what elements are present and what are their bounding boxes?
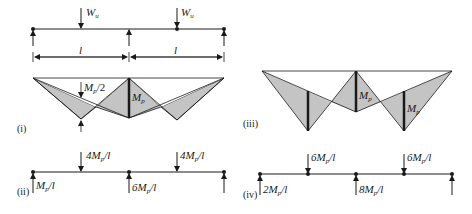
reaction-label-iv-middle: 8Mp/l xyxy=(359,184,383,197)
load-label-iv-left: 6Mp/l xyxy=(311,152,335,165)
label-mp-support: Mp xyxy=(132,92,145,105)
load-label-ii-right: 4Mp/l xyxy=(180,150,204,163)
bending-moment-diagram-i xyxy=(33,78,224,132)
load-label-right: Wu xyxy=(181,7,194,20)
load-label-ii-left: 4Mp/l xyxy=(86,150,110,163)
panel-tag-ii: (ii) xyxy=(17,187,29,197)
label-mp-half: Mp/2 xyxy=(84,82,105,95)
span-label-left: l xyxy=(79,45,82,56)
bending-moment-diagram-iii xyxy=(262,71,452,131)
reaction-label-ii-middle: 6Mp/l xyxy=(132,182,156,195)
reaction-label-ii-left: Mp/l xyxy=(36,180,55,193)
panel-tag-i: (i) xyxy=(17,124,26,134)
reaction-label-iv-left: 2Mp/l xyxy=(263,184,287,197)
panel-tag-iii: (iii) xyxy=(243,119,258,129)
span-label-right: l xyxy=(174,45,177,56)
continuous-beam xyxy=(31,8,226,62)
load-label-left: Wu xyxy=(86,7,99,20)
label-mp-middle: Mp xyxy=(359,90,372,103)
structural-diagram xyxy=(0,0,472,214)
label-mp-right: Mp xyxy=(407,103,420,116)
load-label-iv-right: 6Mp/l xyxy=(407,152,431,165)
panel-tag-iv: (iv) xyxy=(243,190,257,200)
